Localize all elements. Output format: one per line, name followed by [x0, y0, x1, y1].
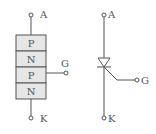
symbol-gate-lead [104, 67, 135, 80]
symbol-gate-label: G [141, 75, 149, 86]
gate-terminal [64, 71, 68, 75]
cathode-terminal [29, 116, 33, 120]
diode-triangle-icon [98, 58, 110, 67]
thyristor-diagram: P N P N A G K A G K [0, 0, 156, 134]
symbol-anode-label: A [107, 9, 116, 20]
thyristor-symbol [97, 13, 139, 120]
anode-terminal [29, 13, 33, 17]
layer-2-label: N [27, 54, 36, 65]
anode-label: A [39, 9, 48, 20]
symbol-gate-terminal [135, 78, 139, 82]
gate-label: G [61, 58, 69, 69]
cathode-label: K [40, 113, 48, 124]
layer-1-label: P [28, 38, 35, 49]
layer-4-label: N [27, 86, 36, 97]
symbol-cathode-terminal [102, 116, 106, 120]
symbol-anode-terminal [102, 13, 106, 17]
symbol-cathode-label: K [108, 113, 116, 124]
layer-3-label: P [28, 70, 35, 81]
